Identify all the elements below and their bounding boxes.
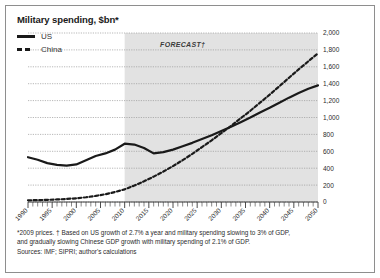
figure-container: 02004006008001,0001,2001,4001,6001,8002,… [0,0,380,278]
legend-label-us: US [41,32,52,41]
footnote-sources: Sources: IMF; SIPRI; author's calculatio… [17,247,365,256]
x-axis-tick-label: 2050 [304,206,319,221]
x-axis-tick-label: 2025 [183,206,198,221]
y-axis-tick-label: 2,000 [323,29,340,36]
footnote-line-1: *2009 prices. † Based on US growth of 2.… [17,228,365,237]
y-axis-tick-label: 1,000 [323,114,340,121]
y-axis-tick-label: 1,800 [323,46,340,53]
x-axis-tick-label: 2045 [279,206,294,221]
y-axis-tick-label: 1,600 [323,63,340,70]
x-axis-tick-label: 2040 [255,206,270,221]
x-axis-tick-label: 2015 [134,206,149,221]
y-axis-tick-label: 800 [323,131,334,138]
y-axis-tick-label: 600 [323,148,334,155]
x-axis-tick-label: 2020 [159,206,174,221]
chart-frame: 02004006008001,0001,2001,4001,6001,8002,… [5,5,375,273]
y-axis-tick-label: 400 [323,165,334,172]
y-axis-tick-label: 1,200 [323,97,340,104]
x-axis-tick-label: 2030 [207,206,222,221]
legend-swatch-solid-icon [17,31,35,42]
chart-legend: US China [17,30,62,56]
legend-label-china: China [41,45,62,54]
x-axis-tick-label: 1995 [38,206,53,221]
y-axis-tick-label: 1,400 [323,80,340,87]
y-axis-tick-label: 0 [323,198,327,205]
x-axis-tick-label: 2005 [86,206,101,221]
legend-item-us: US [17,30,62,43]
footnote-line-2: and gradually slowing Chinese GDP growth… [17,237,365,246]
y-axis-tick-label: 200 [323,182,334,189]
legend-item-china: China [17,43,62,56]
forecast-annotation: FORECAST† [160,41,205,48]
page-title: Military spending, $bn* [17,14,119,25]
x-axis-tick-label: 2000 [62,206,77,221]
x-axis-tick-label: 1990 [14,206,29,221]
x-axis-tick-label: 2010 [110,206,125,221]
x-axis-tick-label: 2035 [231,206,246,221]
footnotes: *2009 prices. † Based on US growth of 2.… [17,228,365,256]
legend-swatch-dotted-icon [17,44,35,55]
